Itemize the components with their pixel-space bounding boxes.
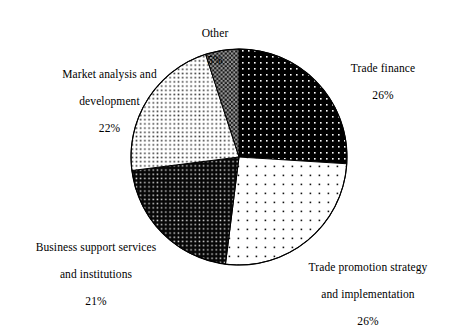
pie-label-trade-promotion: Trade promotion strategy and implementat… bbox=[282, 248, 454, 329]
pie-label-market-analysis-line-1: Market analysis and bbox=[22, 68, 197, 81]
pie-label-market-analysis: Market analysis and development 22% bbox=[22, 55, 197, 149]
pie-label-trade-finance-name: Trade finance bbox=[318, 62, 448, 75]
pie-label-market-analysis-value: 22% bbox=[22, 122, 197, 135]
pie-label-trade-finance: Trade finance 26% bbox=[318, 49, 448, 116]
pie-label-trade-promotion-value: 26% bbox=[282, 315, 454, 328]
pie-label-other-name: Other bbox=[162, 27, 268, 40]
pie-label-trade-finance-value: 26% bbox=[318, 89, 448, 102]
pie-label-trade-promotion-line-2: and implementation bbox=[282, 288, 454, 301]
pie-label-business-support: Business support services and institutio… bbox=[6, 228, 186, 322]
pie-label-trade-promotion-line-1: Trade promotion strategy bbox=[282, 261, 454, 274]
pie-label-business-support-line-1: Business support services bbox=[6, 241, 186, 254]
pie-label-business-support-value: 21% bbox=[6, 295, 186, 308]
pie-label-market-analysis-line-2: development bbox=[22, 95, 197, 108]
pie-label-business-support-line-2: and institutions bbox=[6, 268, 186, 281]
